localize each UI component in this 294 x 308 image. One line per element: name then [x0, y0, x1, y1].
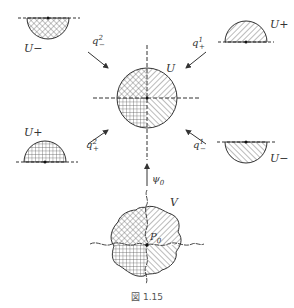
top-left-label: U−: [24, 42, 43, 55]
figure-caption: 図 1.15: [131, 292, 163, 302]
bottom-left-label: U+: [24, 126, 43, 139]
arrow-q1-plus: [186, 52, 206, 68]
arrow-q2-minus: [88, 52, 108, 68]
center-label: U: [166, 62, 176, 75]
region-v: [90, 190, 204, 285]
diagram-canvas: U− U+ U+ U− U q2− q1+ q2+ q1−: [0, 0, 294, 308]
label-v: V: [170, 196, 179, 209]
bottom-left-half-disk: [16, 141, 78, 164]
label-psi0: ψ0: [152, 173, 165, 187]
label-q1-plus: q1+: [192, 36, 205, 51]
central-disk: [93, 45, 201, 160]
top-left-half-disk: [18, 17, 80, 40]
label-q2-minus: q2−: [92, 34, 105, 49]
label-q2-plus: q2+: [86, 138, 99, 153]
bottom-right-label: U−: [270, 152, 289, 165]
bottom-right-half-disk: [217, 141, 275, 164]
top-right-half-disk: [218, 21, 274, 44]
top-right-label: U+: [270, 18, 289, 31]
label-q1-minus: q1−: [193, 138, 206, 153]
